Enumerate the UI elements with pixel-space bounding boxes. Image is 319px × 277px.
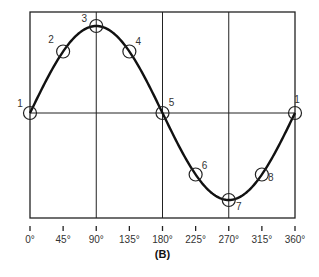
point-label-6: 6 (202, 160, 208, 171)
point-label-2: 2 (48, 34, 54, 45)
point-label-4: 4 (136, 36, 142, 47)
point-label-7: 7 (236, 201, 242, 212)
tick-label: 360° (285, 234, 306, 245)
point-label-5: 5 (169, 97, 175, 108)
tick-label: 225° (185, 234, 206, 245)
point-label-8: 8 (268, 172, 274, 183)
tick-label: 180° (152, 234, 173, 245)
figure-caption: (B) (155, 248, 171, 260)
point-label-1: 1 (294, 94, 300, 105)
tick-label: 135° (119, 234, 140, 245)
sine-wave-chart: 123456781 0°45°90°135°180°225°270°315°36… (0, 0, 319, 277)
point-label-1: 1 (17, 98, 23, 109)
point-label-3: 3 (81, 13, 87, 24)
tick-label: 45° (56, 234, 71, 245)
tick-label: 90° (89, 234, 104, 245)
tick-label: 0° (25, 234, 35, 245)
x-axis-ticks: 0°45°90°135°180°225°270°315°360° (25, 226, 305, 245)
tick-label: 315° (252, 234, 273, 245)
tick-label: 270° (218, 234, 239, 245)
